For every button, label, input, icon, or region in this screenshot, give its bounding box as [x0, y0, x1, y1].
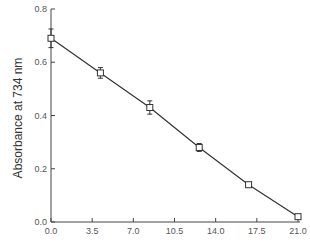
data-point-marker	[295, 214, 301, 220]
data-point-marker	[147, 105, 153, 111]
data-point-marker	[48, 35, 54, 41]
x-tick-label: 14.0	[207, 226, 225, 236]
y-tick-label: 0.6	[34, 57, 47, 67]
data-point-marker	[196, 144, 202, 150]
data-series	[48, 29, 301, 220]
y-axis-title: Absorbance at 734 nm	[11, 58, 25, 179]
x-tick-label: 21.0	[289, 226, 307, 236]
x-tick-label: 7.0	[127, 226, 140, 236]
y-tick-label: 0.4	[34, 111, 47, 121]
x-tick-label: 3.5	[86, 226, 99, 236]
data-point-marker	[97, 70, 103, 76]
x-tick-label: 17.5	[248, 226, 266, 236]
data-point-marker	[246, 182, 252, 188]
x-tick-label: 0.0	[45, 226, 58, 236]
line-chart: 0.00.20.40.60.80.03.57.010.514.017.521.0…	[0, 0, 310, 250]
axes: 0.00.20.40.60.80.03.57.010.514.017.521.0	[34, 4, 306, 236]
y-tick-label: 0.2	[34, 164, 47, 174]
y-tick-label: 0.8	[34, 4, 47, 14]
series-line	[51, 38, 298, 216]
x-tick-label: 10.5	[166, 226, 184, 236]
